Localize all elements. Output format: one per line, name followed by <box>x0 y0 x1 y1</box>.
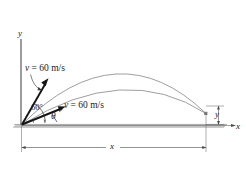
x-axis-label: x <box>236 122 240 131</box>
ground-surface <box>13 124 227 127</box>
dimension-label-y: y <box>215 110 219 119</box>
trajectory-lower-theta <box>22 90 206 125</box>
velocity-symbol-upper: v <box>25 63 29 73</box>
velocity-label-lower: v = 60 m/s <box>64 101 104 111</box>
angle-label-60: 60° <box>31 103 43 112</box>
leader-line-upper-velocity <box>31 75 43 91</box>
velocity-value-upper: = 60 m/s <box>32 63 65 73</box>
y-axis-label: y <box>18 29 22 38</box>
velocity-value-lower: = 60 m/s <box>71 100 104 110</box>
velocity-label-upper: v = 60 m/s <box>25 64 65 74</box>
projectile-motion-figure <box>0 0 246 170</box>
dimension-label-x: x <box>110 142 114 151</box>
angle-label-theta: θ <box>51 112 56 122</box>
velocity-symbol-lower: v <box>64 100 68 110</box>
